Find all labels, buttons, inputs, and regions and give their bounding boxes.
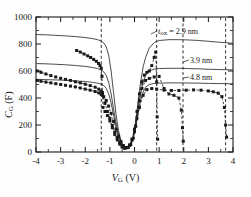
data-point-marker (223, 106, 226, 109)
data-point-marker (155, 80, 158, 83)
data-point-marker (177, 89, 180, 92)
data-point-marker (181, 126, 184, 129)
x-tick-label: -3 (57, 156, 65, 166)
data-point-marker (49, 74, 52, 77)
data-point-marker (69, 79, 72, 82)
data-point-marker (172, 94, 175, 97)
data-point-marker (89, 56, 92, 59)
x-tick-label: -4 (32, 156, 40, 166)
data-point-marker (142, 94, 145, 97)
data-point-marker (148, 77, 151, 80)
data-point-marker (217, 92, 220, 95)
data-point-marker (207, 89, 210, 92)
y-tick-label: 1000 (14, 12, 33, 22)
data-point-marker (199, 89, 202, 92)
data-point-marker (54, 75, 57, 78)
data-point-marker (145, 88, 148, 91)
data-point-marker (156, 138, 159, 141)
data-point-marker (119, 140, 122, 143)
cv-chart-plot: -4-3-2-101234 02004006008001000 (0, 0, 251, 197)
data-point-marker (99, 64, 102, 67)
data-point-marker (89, 84, 92, 87)
annotation-tox-3-9nm: 3.9 nm (190, 56, 212, 65)
data-point-marker (182, 140, 185, 143)
data-point-marker (148, 70, 151, 73)
x-axis-label: VG (V) (0, 172, 251, 184)
data-point-marker (107, 105, 110, 108)
y-axis-label-subscript: G (7, 106, 15, 111)
y-axis-label-unit: (F) (3, 92, 14, 107)
x-tick-label: 0 (132, 156, 137, 166)
data-point-marker (220, 95, 223, 98)
data-point-marker (132, 137, 135, 140)
data-point-marker (225, 136, 228, 139)
data-point-marker (143, 74, 146, 77)
data-point-marker (49, 81, 52, 84)
data-point-marker (79, 51, 82, 54)
data-point-marker (117, 135, 120, 138)
data-point-marker (92, 58, 95, 61)
data-point-marker (150, 64, 153, 67)
data-point-marker (163, 89, 166, 92)
figure-container: -4-3-2-101234 02004006008001000 CG (F) V… (0, 0, 251, 197)
data-point-marker (36, 70, 39, 73)
data-point-marker (79, 81, 82, 84)
data-point-marker (84, 83, 87, 86)
x-tick-label: 3 (206, 156, 211, 166)
data-point-marker (127, 146, 130, 149)
x-tick-label: -2 (82, 156, 90, 166)
y-tick-label: 200 (19, 120, 33, 130)
data-point-marker (59, 83, 62, 86)
data-point-marker (129, 143, 132, 146)
data-point-marker (75, 49, 78, 52)
data-point-marker (180, 109, 183, 112)
data-point-marker (108, 117, 111, 120)
x-axis-label-unit: (V) (123, 172, 139, 183)
data-point-marker (138, 92, 141, 95)
data-point-marker (138, 106, 141, 109)
y-tick-label: 800 (19, 39, 33, 49)
data-point-marker (69, 85, 72, 88)
y-tick-label: 400 (19, 93, 33, 103)
data-point-marker (110, 112, 113, 115)
data-point-marker (177, 97, 180, 100)
data-point-marker (138, 99, 141, 102)
data-point-marker (153, 75, 156, 78)
data-point-marker (54, 82, 57, 85)
data-point-marker (105, 99, 108, 102)
data-point-marker (84, 88, 87, 91)
x-tick-label: 2 (182, 156, 187, 166)
x-tick-label: 1 (157, 156, 162, 166)
data-point-marker (224, 124, 227, 127)
y-tick-label: 0 (28, 147, 33, 157)
data-point-marker (64, 78, 67, 81)
data-point-marker (100, 75, 103, 78)
data-point-marker (101, 106, 104, 109)
x-tick-label: 4 (231, 156, 236, 166)
data-point-marker (86, 54, 89, 57)
data-point-marker (154, 51, 157, 54)
data-point-marker (83, 52, 86, 55)
data-point-marker (64, 84, 67, 87)
data-point-marker (140, 87, 143, 90)
data-point-marker (94, 90, 97, 93)
data-point-marker (36, 79, 39, 82)
data-point-marker (94, 86, 97, 89)
data-point-marker (170, 89, 173, 92)
data-point-marker (74, 80, 77, 83)
data-point-marker (192, 88, 195, 91)
data-point-marker (113, 131, 116, 134)
y-axis-tick-labels: 02004006008001000 (14, 12, 33, 157)
data-point-marker (79, 87, 82, 90)
data-point-marker (111, 124, 114, 127)
x-tick-label: -1 (106, 156, 114, 166)
data-point-marker (167, 92, 170, 95)
annotation-tox-2-9nm: tox = 2.9 nm (158, 27, 198, 37)
data-point-marker (112, 120, 115, 123)
data-point-marker (103, 102, 106, 105)
data-point-marker (39, 71, 42, 74)
data-point-marker (59, 77, 62, 80)
data-point-marker (106, 110, 109, 113)
y-axis-label-text: CG (F) (3, 92, 15, 118)
data-point-marker (115, 128, 118, 131)
